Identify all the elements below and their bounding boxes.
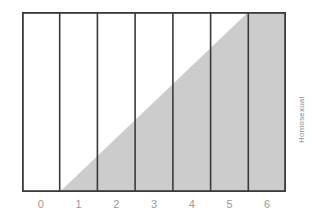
x-tick-0: 0 [22, 194, 60, 216]
x-axis-tick-labels: 0 1 2 3 4 5 6 [22, 194, 286, 216]
right-axis-label-homosexual: Homosexual [297, 97, 306, 143]
x-tick-3: 3 [135, 194, 173, 216]
x-tick-6: 6 [248, 194, 286, 216]
x-tick-2: 2 [97, 194, 135, 216]
x-tick-4: 4 [173, 194, 211, 216]
kinsey-scale-figure: Heterosexual Homosexual 0 1 2 3 4 5 6 [0, 0, 312, 219]
x-tick-5: 5 [211, 194, 249, 216]
scale-diagram-svg [22, 12, 286, 192]
plot-area [22, 12, 286, 192]
x-tick-1: 1 [60, 194, 98, 216]
